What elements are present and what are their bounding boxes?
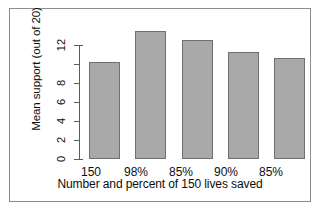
y-tick-2 xyxy=(74,140,79,141)
y-tick-0 xyxy=(74,159,79,160)
plot-area xyxy=(81,29,313,159)
bar-98pct xyxy=(135,31,166,159)
y-tick-label-6: 6 xyxy=(55,91,67,113)
x-axis-title: Number and percent of 150 lives saved xyxy=(9,177,311,191)
bar-150 xyxy=(89,62,120,160)
bar-85pct-b xyxy=(274,58,305,159)
y-tick-8 xyxy=(74,83,79,84)
bar-90pct xyxy=(228,52,259,159)
y-tick-12 xyxy=(74,45,79,46)
y-tick-label-12: 12 xyxy=(55,34,67,56)
y-tick-10 xyxy=(74,64,79,65)
bar-chart-figure: Mean support (out of 20) 0 2 4 6 8 12 15… xyxy=(0,0,322,213)
y-tick-label-0: 0 xyxy=(55,148,67,170)
y-axis-cap-bottom xyxy=(79,159,83,160)
y-axis-line xyxy=(79,45,80,159)
figure-frame: Mean support (out of 20) 0 2 4 6 8 12 15… xyxy=(9,8,311,202)
bar-85pct-a xyxy=(182,40,213,159)
y-tick-4 xyxy=(74,121,79,122)
y-tick-label-2: 2 xyxy=(55,129,67,151)
y-tick-6 xyxy=(74,102,79,103)
y-tick-label-4: 4 xyxy=(55,110,67,132)
y-tick-label-8: 8 xyxy=(55,72,67,94)
y-axis-title: Mean support (out of 20) xyxy=(30,7,42,131)
